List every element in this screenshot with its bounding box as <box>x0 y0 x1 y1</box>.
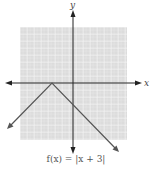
y-axis-down-arrow-icon <box>71 147 76 154</box>
y-axis-up-arrow-icon <box>71 10 76 17</box>
function-graph: y x <box>0 0 152 170</box>
x-axis-label: x <box>144 78 149 88</box>
y-axis-label: y <box>69 0 76 10</box>
x-axis-right-arrow-icon <box>135 81 142 86</box>
x-axis-left-arrow-icon <box>5 81 12 86</box>
function-caption: f(x) = |x + 3| <box>0 154 152 164</box>
